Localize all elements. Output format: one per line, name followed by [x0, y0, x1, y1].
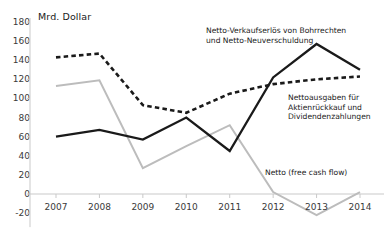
chart-container: Mrd. Dollar -20020406080100120140160180 … — [0, 0, 384, 239]
x-tick-label: 2008 — [88, 202, 111, 212]
x-tick-marks — [56, 194, 360, 198]
data-series-group — [56, 44, 360, 215]
annotation-drilling-rights: Netto-Verkaufserlös von Bohrrechten und … — [206, 26, 346, 45]
x-tick-label: 2009 — [131, 202, 154, 212]
x-tick-label: 2010 — [175, 202, 198, 212]
x-tick-label: 2014 — [349, 202, 372, 212]
x-tick-label: 2011 — [218, 202, 241, 212]
x-tick-label: 2013 — [305, 202, 328, 212]
x-tick-label: 2007 — [45, 202, 68, 212]
axis-lines — [30, 18, 384, 227]
annotation-buyback-dividends: Nettoausgaben für Aktienrückkauf und Div… — [288, 93, 371, 122]
annotation-free-cash-flow: Netto (free cash flow) — [265, 168, 347, 178]
x-tick-label: 2012 — [262, 202, 285, 212]
